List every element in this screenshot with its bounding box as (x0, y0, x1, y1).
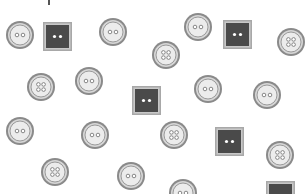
round-two-hole-button-icon (193, 74, 223, 104)
round-two-hole-button-icon (168, 178, 198, 194)
round-four-hole-button-icon (159, 120, 189, 150)
round-four-hole-button-icon (40, 157, 70, 187)
top-edge-mark (48, 0, 50, 5)
button-scatter-scene (0, 0, 306, 194)
round-four-hole-button-icon (151, 40, 181, 70)
round-two-hole-button-icon (116, 161, 146, 191)
round-two-hole-button-icon (80, 120, 110, 150)
square-two-hole-button-icon (266, 181, 295, 195)
round-four-hole-button-icon (276, 27, 306, 57)
square-two-hole-button-icon (43, 22, 72, 51)
square-two-hole-button-icon (132, 86, 161, 115)
round-two-hole-button-icon (5, 20, 35, 50)
round-four-hole-button-icon (265, 140, 295, 170)
round-four-hole-button-icon (26, 72, 56, 102)
round-two-hole-button-icon (74, 66, 104, 96)
square-two-hole-button-icon (215, 127, 244, 156)
round-two-hole-button-icon (98, 17, 128, 47)
round-two-hole-button-icon (252, 80, 282, 110)
round-two-hole-button-icon (183, 12, 213, 42)
square-two-hole-button-icon (223, 20, 252, 49)
round-two-hole-button-icon (5, 116, 35, 146)
